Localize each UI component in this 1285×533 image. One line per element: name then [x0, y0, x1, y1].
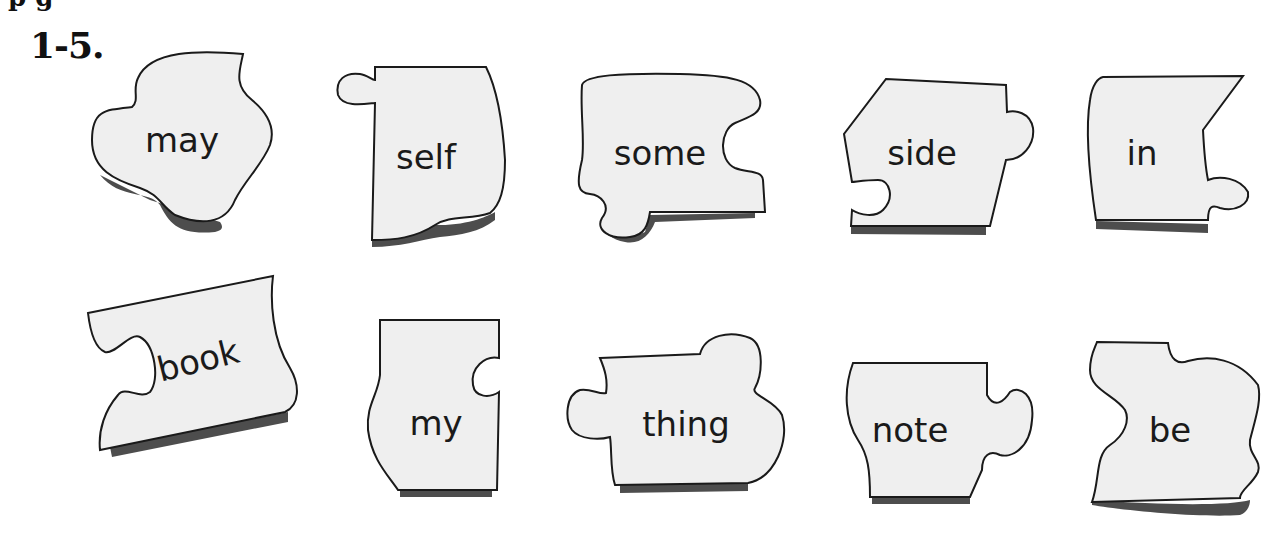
piece-word: be [1149, 413, 1192, 447]
puzzle-shape-icon [0, 0, 1285, 533]
